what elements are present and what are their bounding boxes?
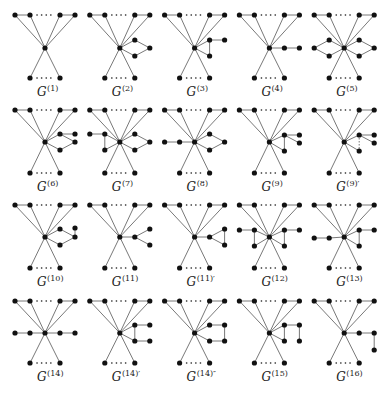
- vertex: [42, 139, 47, 144]
- vertex: [297, 45, 302, 50]
- vertex: [87, 298, 92, 303]
- vertex: [147, 139, 152, 144]
- graph-panel: G(1): [12, 12, 77, 99]
- vertex: [102, 360, 107, 365]
- graph-panel: G(10): [12, 202, 77, 289]
- vertex: [102, 131, 107, 136]
- vertex: [252, 12, 257, 17]
- vertex: [132, 53, 137, 58]
- vertex: [282, 45, 287, 50]
- vertex: [357, 148, 362, 153]
- vertex: [177, 75, 182, 80]
- graph-panel: G(11)′: [162, 202, 227, 289]
- graph-panel: G(8): [162, 107, 227, 194]
- vertex: [357, 132, 362, 137]
- graph-label: G(15): [261, 369, 288, 384]
- graph-label: G(9)′: [336, 179, 359, 194]
- vertex: [252, 360, 257, 365]
- vertex: [147, 322, 152, 327]
- vertex: [117, 45, 122, 50]
- vertex: [27, 265, 32, 270]
- vertex: [57, 242, 62, 247]
- graph-panel: G(2): [87, 12, 152, 99]
- vertex: [267, 330, 272, 335]
- vertex: [132, 338, 137, 343]
- graph-label: G(14)″: [187, 369, 217, 384]
- vertex: [72, 107, 77, 112]
- vertex: [252, 243, 257, 248]
- vertex: [27, 75, 32, 80]
- vertex: [207, 147, 212, 152]
- vertex: [57, 107, 62, 112]
- vertex: [282, 170, 287, 175]
- vertex: [147, 107, 152, 112]
- vertex: [282, 265, 287, 270]
- vertex: [192, 234, 197, 239]
- vertex: [132, 265, 137, 270]
- graph-label: G(2): [112, 84, 133, 99]
- vertex: [12, 12, 17, 17]
- vertex: [297, 227, 302, 232]
- vertex: [72, 298, 77, 303]
- vertex: [297, 107, 302, 112]
- vertex: [357, 202, 362, 207]
- vertex: [132, 12, 137, 17]
- vertex: [327, 53, 332, 58]
- graph-label: G(11)′: [187, 274, 216, 289]
- vertex: [357, 298, 362, 303]
- vertex: [222, 322, 227, 327]
- vertex: [357, 107, 362, 112]
- vertex: [282, 227, 287, 232]
- vertex: [162, 107, 167, 112]
- vertex: [252, 298, 257, 303]
- vertex: [192, 139, 197, 144]
- graph-label: G(3): [187, 84, 208, 99]
- vertex: [207, 234, 212, 239]
- vertex: [267, 234, 272, 239]
- vertex: [27, 202, 32, 207]
- vertex: [297, 12, 302, 17]
- vertex: [87, 202, 92, 207]
- vertex: [42, 330, 47, 335]
- vertex: [327, 265, 332, 270]
- vertex: [102, 75, 107, 80]
- vertex: [237, 298, 242, 303]
- vertex: [312, 235, 317, 240]
- vertex: [357, 12, 362, 17]
- vertex: [327, 107, 332, 112]
- graph-panel: G(14)″: [162, 298, 227, 384]
- graph-label: G(10): [37, 274, 64, 289]
- vertex: [117, 139, 122, 144]
- vertex: [57, 170, 62, 175]
- graph-panel: G(14): [12, 298, 77, 384]
- vertex: [102, 265, 107, 270]
- graph-label: G(6): [37, 179, 58, 194]
- vertex: [342, 234, 347, 239]
- vertex: [207, 265, 212, 270]
- graph-panel: G(9): [237, 107, 302, 194]
- vertex: [357, 360, 362, 365]
- vertex: [282, 132, 287, 137]
- graph-label: G(5): [336, 84, 357, 99]
- vertex: [132, 322, 137, 327]
- vertex: [132, 131, 137, 136]
- vertex: [27, 170, 32, 175]
- graph-label: G(8): [187, 179, 208, 194]
- vertex: [207, 338, 212, 343]
- vertex: [207, 107, 212, 112]
- vertex: [72, 202, 77, 207]
- vertex: [57, 147, 62, 152]
- vertex: [132, 107, 137, 112]
- vertex: [12, 298, 17, 303]
- vertex: [57, 75, 62, 80]
- vertex: [57, 360, 62, 365]
- vertex: [102, 170, 107, 175]
- vertex: [282, 75, 287, 80]
- vertex: [297, 338, 302, 343]
- vertex: [372, 107, 377, 112]
- vertex: [57, 226, 62, 231]
- vertex: [27, 298, 32, 303]
- vertex: [327, 75, 332, 80]
- vertex: [207, 53, 212, 58]
- vertex: [147, 226, 152, 231]
